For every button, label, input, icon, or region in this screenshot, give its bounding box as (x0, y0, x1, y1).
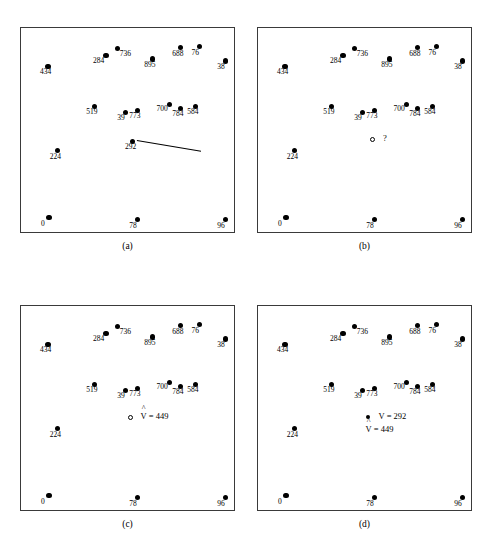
data-point-label: 784 (172, 110, 183, 118)
data-point-label: 434 (277, 68, 288, 76)
annotation-text: V = 449 (366, 424, 394, 434)
panel-a-caption: (a) (20, 241, 235, 251)
data-point-label: 519 (86, 108, 97, 116)
panel-a: 4342847368956887638519397737007845842922… (20, 27, 235, 233)
data-point-label: 96 (217, 500, 225, 508)
data-point-label: 519 (323, 108, 334, 116)
data-point-label: 895 (144, 61, 155, 69)
data-point-label: 584 (424, 386, 435, 394)
data-point-label: 38 (217, 341, 225, 349)
data-point-label: 519 (86, 386, 97, 394)
data-point-label: 895 (381, 61, 392, 69)
data-point-label: 39 (354, 114, 362, 122)
panel-a-plot-area: 4342847368956887638519397737007845842922… (20, 27, 235, 233)
data-point-label: 700 (393, 105, 404, 113)
filled-dot-marker-icon (283, 215, 288, 220)
panel-c: 4342847368956887638519397737007845842240… (20, 305, 235, 511)
data-point-label: 773 (366, 390, 377, 398)
data-point-label: 284 (93, 335, 104, 343)
panel-b: 4342847368956887638519397737007845842240… (257, 27, 472, 233)
annotation-text: V = 449 (141, 411, 169, 421)
data-point-label: 688 (172, 50, 183, 58)
data-point-label: 96 (454, 222, 462, 230)
annotation-open-circle-icon (370, 137, 375, 142)
data-point-label: 39 (117, 392, 125, 400)
data-point-label: 39 (117, 114, 125, 122)
filled-dot-marker-icon (46, 215, 51, 220)
data-point-label: 895 (144, 339, 155, 347)
data-point-label: 76 (192, 327, 200, 335)
data-point-label: 773 (129, 112, 140, 120)
data-point-label: 736 (120, 328, 131, 336)
panel-d-caption: (d) (257, 519, 472, 529)
hat-accent-icon: V (366, 424, 372, 434)
data-point-label: 688 (409, 328, 420, 336)
annotation-text: V = 292 (379, 411, 407, 421)
data-point-label: 96 (454, 500, 462, 508)
data-point-label: 284 (330, 57, 341, 65)
data-point-label: 784 (409, 388, 420, 396)
hat-accent-icon: V (141, 411, 147, 421)
panel-b-plot-area: 4342847368956887638519397737007845842240… (257, 27, 472, 233)
panel-c-plot-area: 4342847368956887638519397737007845842240… (20, 305, 235, 511)
data-point-label: 38 (454, 341, 462, 349)
data-point-label: 78 (366, 500, 374, 508)
data-point-label: 773 (366, 112, 377, 120)
data-point-label: 0 (41, 498, 45, 506)
data-point-label: 0 (41, 220, 45, 228)
panel-b-caption: (b) (257, 241, 472, 251)
filled-dot-marker-icon (46, 493, 51, 498)
data-point-label: 784 (172, 388, 183, 396)
data-point-label: 736 (357, 50, 368, 58)
data-point-label: 96 (217, 222, 225, 230)
data-point-label: 284 (330, 335, 341, 343)
data-point-label: 700 (156, 383, 167, 391)
data-point-label: 434 (40, 68, 51, 76)
data-point-label: 584 (187, 386, 198, 394)
filled-dot-marker-icon (283, 493, 288, 498)
figure-panel-grid: 4342847368956887638519397737007845842922… (0, 0, 492, 548)
data-point-label: 434 (40, 346, 51, 354)
data-point-label: 76 (192, 49, 200, 57)
data-point-label: 292 (125, 143, 136, 151)
data-point-label: 895 (381, 339, 392, 347)
data-point-label: 700 (393, 383, 404, 391)
data-point-label: 688 (409, 50, 420, 58)
data-point-label: 736 (357, 328, 368, 336)
data-point-label: 38 (454, 63, 462, 71)
data-point-label: 0 (278, 498, 282, 506)
data-point-label: 584 (187, 108, 198, 116)
data-point-label: 434 (277, 346, 288, 354)
data-point-label: 78 (129, 500, 137, 508)
data-point-label: 39 (354, 392, 362, 400)
annotation-open-circle-icon (128, 415, 133, 420)
data-point-label: 76 (429, 49, 437, 57)
data-point-label: 38 (217, 63, 225, 71)
annotation-text: ? (383, 133, 387, 143)
data-point-label: 284 (93, 57, 104, 65)
data-point-label: 784 (409, 110, 420, 118)
data-point-label: 584 (424, 108, 435, 116)
data-point-label: 78 (366, 222, 374, 230)
data-point-label: 0 (278, 220, 282, 228)
data-point-label: 688 (172, 328, 183, 336)
panel-c-caption: (c) (20, 519, 235, 529)
data-point-label: 76 (429, 327, 437, 335)
panel-d: 4342847368956887638519397737007845842240… (257, 305, 472, 511)
data-point-label: 224 (287, 431, 298, 439)
data-point-label: 519 (323, 386, 334, 394)
data-point-label: 224 (50, 431, 61, 439)
data-point-label: 700 (156, 105, 167, 113)
panel-d-plot-area: 4342847368956887638519397737007845842240… (257, 305, 472, 511)
data-point-label: 224 (287, 153, 298, 161)
data-point-label: 773 (129, 390, 140, 398)
data-point-label: 224 (50, 153, 61, 161)
data-point-label: 78 (129, 222, 137, 230)
data-point-label: 736 (120, 50, 131, 58)
leader-line (137, 140, 202, 152)
